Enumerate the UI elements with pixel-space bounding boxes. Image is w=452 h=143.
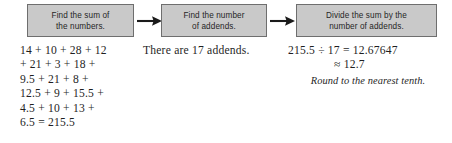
flowchart-row: Find the sum of the numbers. Find the nu… bbox=[0, 0, 452, 44]
sum-line: 14 + 10 + 28 + 12 bbox=[20, 44, 140, 58]
step-box-find-number-of-addends: Find the number of addends. bbox=[161, 4, 267, 37]
step-box-divide: Divide the sum by the number of addends. bbox=[296, 4, 437, 37]
sum-line: 6.5 = 215.5 bbox=[20, 116, 140, 130]
rounding-caption: Round to the nearest tenth. bbox=[288, 74, 448, 87]
work-columns: 14 + 10 + 28 + 12 + 21 + 3 + 18 + 9.5 + … bbox=[0, 44, 452, 143]
step-box-find-number-of-addends-label: Find the number of addends. bbox=[183, 10, 244, 32]
sum-line: 4.5 + 10 + 13 + bbox=[20, 102, 140, 116]
division-approximation: ≈ 12.7 bbox=[288, 58, 448, 72]
step-box-find-sum-label: Find the sum of the numbers. bbox=[52, 10, 110, 32]
sum-line: + 21 + 3 + 18 + bbox=[20, 58, 140, 72]
sum-line: 12.5 + 9 + 15.5 + bbox=[20, 87, 140, 101]
mean-procedure-figure: Find the sum of the numbers. Find the nu… bbox=[0, 0, 452, 143]
sum-work-column: 14 + 10 + 28 + 12 + 21 + 3 + 18 + 9.5 + … bbox=[20, 44, 140, 130]
addend-count-column: There are 17 addends. bbox=[143, 44, 269, 58]
addend-count-text: There are 17 addends. bbox=[143, 44, 269, 58]
step-box-find-sum: Find the sum of the numbers. bbox=[27, 4, 134, 37]
step-box-divide-label: Divide the sum by the number of addends. bbox=[326, 10, 407, 32]
sum-line: 9.5 + 21 + 8 + bbox=[20, 73, 140, 87]
right-arrow-icon bbox=[270, 14, 296, 28]
division-equation: 215.5 ÷ 17 = 12.67647 bbox=[288, 44, 448, 58]
division-work-column: 215.5 ÷ 17 = 12.67647 ≈ 12.7 Round to th… bbox=[288, 44, 448, 87]
right-arrow-icon bbox=[137, 14, 163, 28]
